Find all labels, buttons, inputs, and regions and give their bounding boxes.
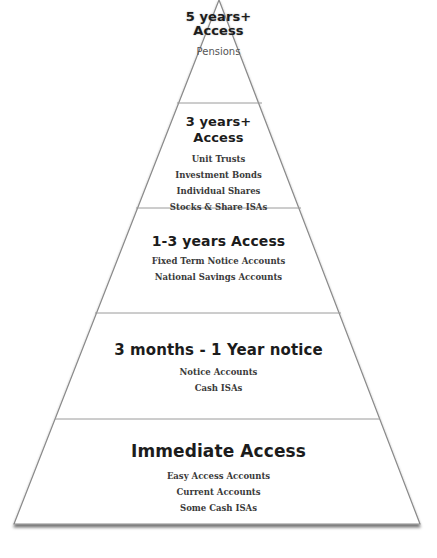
tier-item-list: Easy Access Accounts Current Accounts So… [0, 468, 437, 516]
tier-5-years-plus: 5 years+ Access Pensions [0, 10, 437, 60]
tier-item-list: Fixed Term Notice Accounts National Savi… [0, 253, 437, 285]
tier-item-list: Pensions [0, 44, 437, 60]
tier-item: Pensions [0, 44, 437, 60]
tier-title: 3 months - 1 Year notice [0, 340, 437, 360]
tier-title: 5 years+ [0, 10, 437, 24]
tier-item: Easy Access Accounts [0, 468, 437, 484]
tier-item-list: Unit Trusts Investment Bonds Individual … [0, 151, 437, 215]
tier-item: National Savings Accounts [0, 269, 437, 285]
tier-item-list: Notice Accounts Cash ISAs [0, 364, 437, 396]
tier-3-years-plus: 3 years+ Access Unit Trusts Investment B… [0, 114, 437, 215]
tier-title: 1-3 years Access [0, 232, 437, 250]
tier-title-line2: Access [0, 24, 437, 38]
tier-item: Stocks & Share ISAs [0, 199, 437, 215]
tier-item: Unit Trusts [0, 151, 437, 167]
tier-item: Investment Bonds [0, 167, 437, 183]
tier-3-months-1-year: 3 months - 1 Year notice Notice Accounts… [0, 340, 437, 396]
tier-title-line2: Access [0, 130, 437, 146]
tier-immediate-access: Immediate Access Easy Access Accounts Cu… [0, 440, 437, 516]
tier-item: Some Cash ISAs [0, 500, 437, 516]
tier-item: Fixed Term Notice Accounts [0, 253, 437, 269]
tier-1-3-years: 1-3 years Access Fixed Term Notice Accou… [0, 232, 437, 285]
tier-title: 3 years+ [0, 114, 437, 130]
tier-title: Immediate Access [0, 440, 437, 462]
tier-item: Notice Accounts [0, 364, 437, 380]
tier-item: Individual Shares [0, 183, 437, 199]
tier-item: Current Accounts [0, 484, 437, 500]
tier-item: Cash ISAs [0, 380, 437, 396]
